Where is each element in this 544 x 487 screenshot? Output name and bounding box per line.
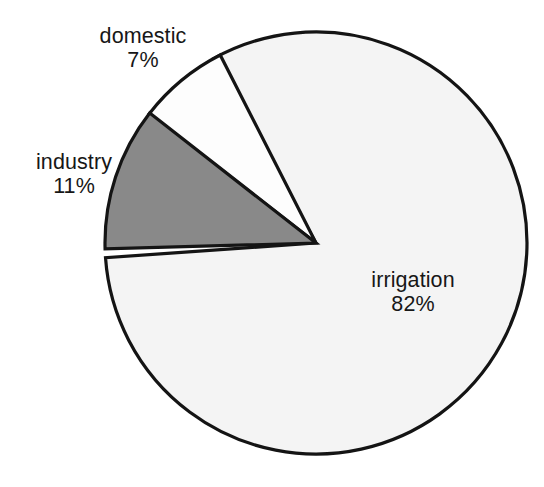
slice-label-irrigation-name: irrigation [344,268,482,292]
slice-label-industry: industry 11% [4,150,144,198]
slice-label-industry-value: 11% [4,174,144,198]
pie-slices-layer [105,32,527,454]
slice-label-industry-name: industry [4,150,144,174]
pie-chart: domestic 7% industry 11% irrigation 82% [0,0,544,487]
slice-label-domestic: domestic 7% [68,24,218,72]
slice-label-domestic-value: 7% [68,48,218,72]
slice-label-domestic-name: domestic [68,24,218,48]
pie-chart-canvas [0,0,544,487]
slice-label-irrigation: irrigation 82% [344,268,482,316]
slice-label-irrigation-value: 82% [344,292,482,316]
